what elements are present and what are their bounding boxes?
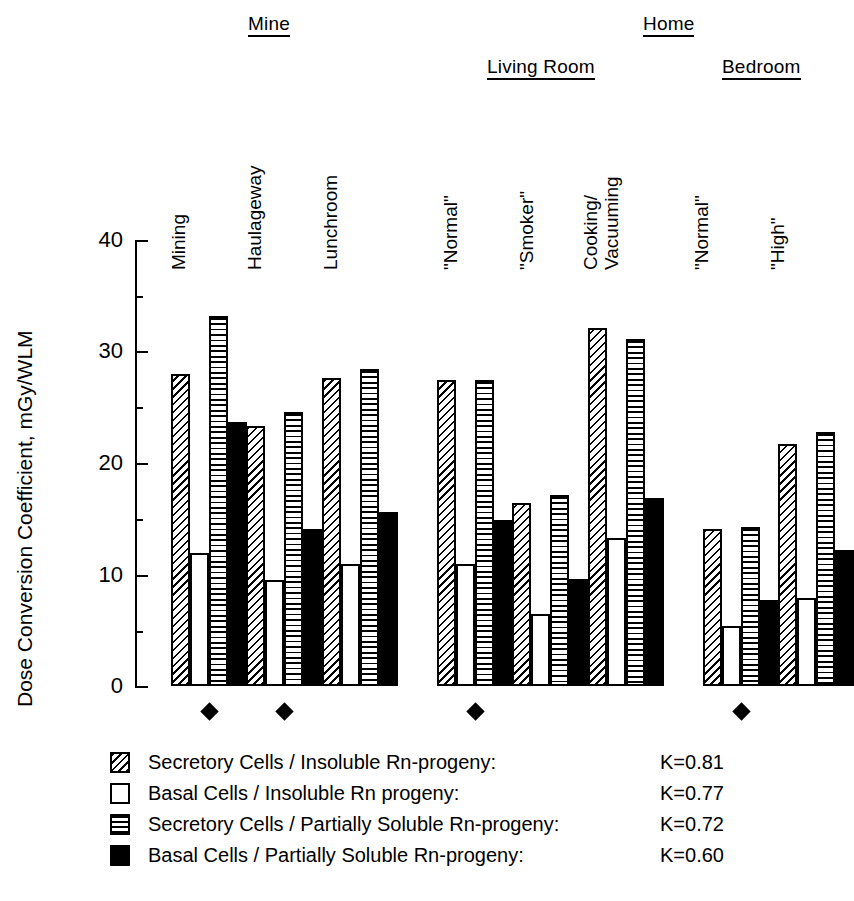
bar-basal-insoluble <box>531 614 550 686</box>
group-header-mine: Mine <box>248 14 290 37</box>
y-tick-30 <box>137 351 148 353</box>
y-tick-label-10: 10 <box>75 564 123 586</box>
bar-secretory-insoluble <box>778 444 797 686</box>
legend-k-value: K=0.60 <box>660 841 724 870</box>
y-tick-40 <box>137 240 148 242</box>
legend-row: Basal Cells / Partially Soluble Rn-proge… <box>110 841 830 872</box>
bar-secretory-partially-soluble <box>209 316 228 686</box>
y-tick-5 <box>137 631 143 633</box>
diamond-marker-icon <box>466 702 484 720</box>
bar-basal-partially-soluble <box>645 498 664 686</box>
bar-basal-insoluble <box>265 580 284 686</box>
category-label-living-room-normal: "Normal" <box>441 195 461 270</box>
category-label-vacuuming: Vacuuming <box>602 176 622 270</box>
bar-basal-insoluble <box>722 626 741 686</box>
y-tick-10 <box>137 575 148 577</box>
category-label-bedroom-high: "High" <box>768 217 788 270</box>
bar-secretory-partially-soluble <box>284 412 303 686</box>
bar-basal-insoluble <box>190 553 209 686</box>
legend-label: Basal Cells / Partially Soluble Rn-proge… <box>148 841 524 870</box>
y-tick-0 <box>137 686 148 688</box>
bar-secretory-partially-soluble <box>626 339 645 686</box>
y-axis-title: Dose Conversion Coefficient, mGy/WLM <box>14 330 36 707</box>
category-label-cooking: Cooking/ <box>581 195 601 270</box>
category-label-lunchroom: Lunchroom <box>321 175 341 270</box>
legend-k-value: K=0.72 <box>660 810 724 839</box>
legend-k-value: K=0.81 <box>660 748 724 777</box>
chart-legend: Secretory Cells / Insoluble Rn-progeny: … <box>110 748 830 872</box>
diamond-marker-icon <box>200 702 218 720</box>
bar-basal-insoluble <box>341 564 360 686</box>
bar-secretory-partially-soluble <box>816 432 835 686</box>
bar-secretory-insoluble <box>322 378 341 686</box>
bar-secretory-insoluble <box>512 503 531 686</box>
y-tick-15 <box>137 519 143 521</box>
bar-basal-insoluble <box>607 538 626 686</box>
y-tick-label-30: 30 <box>75 340 123 362</box>
y-tick-20 <box>137 463 148 465</box>
bar-basal-partially-soluble <box>228 422 247 686</box>
y-tick-35 <box>137 296 143 298</box>
legend-swatch-basal-partially-soluble <box>110 845 130 866</box>
y-tick-label-40: 40 <box>75 229 123 251</box>
bar-basal-partially-soluble <box>379 512 398 686</box>
category-label-haulageway: Haulageway <box>245 165 265 270</box>
category-label-living-room-smoker: "Smoker" <box>517 191 537 270</box>
bar-secretory-partially-soluble <box>360 369 379 686</box>
group-header-living-room: Living Room <box>487 57 595 80</box>
legend-swatch-basal-insoluble <box>110 783 130 804</box>
bar-basal-partially-soluble <box>760 600 779 686</box>
diamond-marker-icon <box>732 702 750 720</box>
bar-basal-partially-soluble <box>494 520 513 686</box>
bar-basal-partially-soluble <box>835 550 854 686</box>
bar-basal-partially-soluble <box>303 529 322 686</box>
legend-row: Basal Cells / Insoluble Rn progeny: K=0.… <box>110 779 830 810</box>
legend-row: Secretory Cells / Insoluble Rn-progeny: … <box>110 748 830 779</box>
bar-secretory-partially-soluble <box>741 527 760 686</box>
legend-row: Secretory Cells / Partially Soluble Rn-p… <box>110 810 830 841</box>
legend-k-value: K=0.77 <box>660 779 724 808</box>
bar-secretory-insoluble <box>171 374 190 686</box>
bar-secretory-partially-soluble <box>550 495 569 686</box>
bar-secretory-insoluble <box>246 426 265 686</box>
bar-secretory-insoluble <box>437 380 456 686</box>
y-tick-label-0: 0 <box>75 675 123 697</box>
group-header-home: Home <box>643 14 694 37</box>
bar-secretory-partially-soluble <box>475 380 494 686</box>
category-label-mining: Mining <box>169 214 189 270</box>
legend-label: Secretory Cells / Partially Soluble Rn-p… <box>148 810 559 839</box>
bar-basal-insoluble <box>456 564 475 686</box>
bar-secretory-insoluble <box>588 328 607 686</box>
bar-basal-insoluble <box>797 598 816 686</box>
y-tick-label-20: 20 <box>75 452 123 474</box>
y-tick-25 <box>137 407 143 409</box>
legend-label: Secretory Cells / Insoluble Rn-progeny: <box>148 748 496 777</box>
legend-label: Basal Cells / Insoluble Rn progeny: <box>148 779 459 808</box>
group-header-bedroom: Bedroom <box>722 57 801 80</box>
diamond-marker-icon <box>275 702 293 720</box>
legend-swatch-secretory-insoluble <box>110 752 130 773</box>
bar-basal-partially-soluble <box>569 579 588 686</box>
bar-secretory-insoluble <box>703 529 722 686</box>
legend-swatch-secretory-partially-soluble <box>110 814 130 835</box>
category-label-bedroom-normal: "Normal" <box>692 195 712 270</box>
